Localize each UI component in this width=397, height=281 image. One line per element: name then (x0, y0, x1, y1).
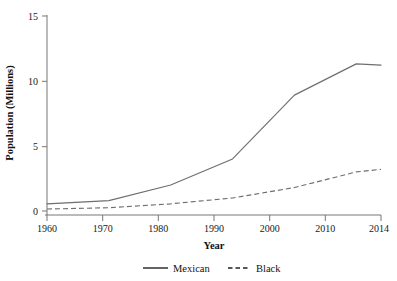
y-axis-title: Population (Millions) (4, 65, 16, 161)
x-axis-ticks: 1960 1970 1980 1990 2000 2010 2014 (37, 215, 389, 234)
y-tick-label-5: 5 (33, 141, 38, 152)
chart-legend: Mexican Black (143, 263, 281, 274)
y-axis-ticks: 0 5 10 15 (28, 11, 47, 217)
x-tick-label-1970: 1970 (93, 223, 113, 234)
x-tick-label-2014: 2014 (369, 223, 389, 234)
chart-container: Population (Millions) 0 5 10 15 1960 197… (0, 0, 397, 281)
line-chart: Population (Millions) 0 5 10 15 1960 197… (0, 0, 397, 281)
x-tick-label-1960: 1960 (37, 223, 57, 234)
series-line-black (47, 169, 381, 209)
y-tick-label-0: 0 (33, 206, 38, 217)
x-tick-label-1980: 1980 (148, 223, 168, 234)
y-tick-label-15: 15 (28, 11, 38, 22)
legend-label-mexican: Mexican (173, 263, 210, 274)
series-line-mexican (47, 64, 381, 204)
x-tick-label-1990: 1990 (204, 223, 224, 234)
x-tick-label-2000: 2000 (260, 223, 280, 234)
x-axis-title: Year (204, 240, 225, 251)
y-tick-label-10: 10 (28, 76, 38, 87)
x-tick-label-2010: 2010 (315, 223, 335, 234)
legend-label-black: Black (256, 263, 281, 274)
